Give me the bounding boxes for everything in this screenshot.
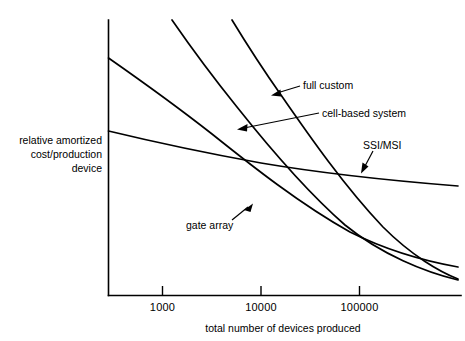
annotation-gate-array: gate array <box>186 219 233 231</box>
arrowhead-full-custom <box>271 90 281 97</box>
arrowhead-gate-array <box>244 204 253 213</box>
chart-figure: relative amortized cost/production devic… <box>0 0 465 341</box>
chart-canvas: 1000 10000 100000 total number of device… <box>0 0 465 341</box>
curve-cell-based-system <box>172 20 458 280</box>
annotation-ssi-msi: SSI/MSI <box>363 139 402 151</box>
x-axis-title: total number of devices produced <box>205 322 360 334</box>
x-tick-label-1000: 1000 <box>150 301 175 313</box>
leader-cell-based <box>244 113 319 128</box>
annotation-full-custom: full custom <box>303 79 353 91</box>
arrowhead-ssi-msi <box>361 163 369 174</box>
curve-full-custom <box>232 20 458 279</box>
annotation-cell-based-system: cell-based system <box>322 107 406 119</box>
x-tick-label-100000: 100000 <box>341 301 379 313</box>
x-tick-label-10000: 10000 <box>245 301 277 313</box>
arrowhead-cell-based <box>237 124 248 132</box>
curve-ssi-msi <box>109 131 459 186</box>
